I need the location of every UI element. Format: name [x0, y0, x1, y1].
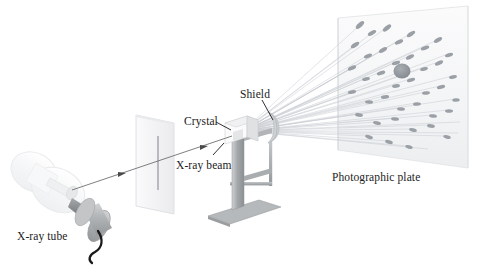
label-xray-beam: X-ray beam	[176, 160, 232, 172]
label-shield: Shield	[240, 89, 270, 101]
label-crystal: Crystal	[184, 116, 218, 128]
label-xray-tube: X-ray tube	[17, 231, 68, 243]
xray-tube-assembly	[4, 144, 115, 263]
collimator-plate	[136, 115, 174, 214]
diagram-canvas	[0, 0, 477, 270]
crystal-and-stand	[208, 116, 281, 227]
xray-diffraction-figure: X-ray tube Crystal Shield X-ray beam Pho…	[0, 0, 477, 270]
center-diffraction-spot	[394, 64, 411, 79]
photographic-plate	[338, 6, 468, 168]
leader-xray-beam	[213, 143, 224, 155]
label-photographic-plate: Photographic plate	[332, 172, 420, 184]
